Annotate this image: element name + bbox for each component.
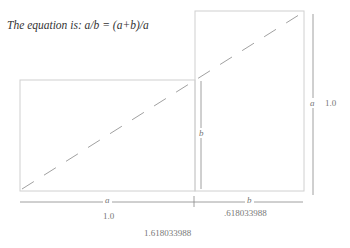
label-right-value: 1.0: [323, 98, 338, 108]
square-b: [195, 11, 304, 191]
golden-ratio-diagram: [0, 0, 350, 248]
label-b-value: .618033988: [222, 208, 269, 218]
label-total-value: 1.618033988: [142, 228, 193, 238]
rectangle-a: [20, 80, 195, 191]
diagonal-dashed-line: [22, 13, 302, 189]
label-b-inner: b: [197, 128, 206, 138]
label-a-value: 1.0: [101, 211, 116, 221]
label-b-bottom: b: [245, 195, 254, 205]
label-a-bottom: a: [103, 195, 112, 205]
label-a-right: a: [308, 98, 317, 108]
